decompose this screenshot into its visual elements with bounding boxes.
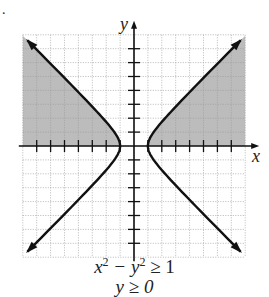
y-axis-label: y [118,14,128,34]
hyperbola-graph: y x [0,0,269,297]
x-axis-label: x [251,146,260,166]
inequality-1: x2 − y2 ≥ 1 [0,255,269,278]
inequality-2: y ≥ 0 [0,276,269,297]
